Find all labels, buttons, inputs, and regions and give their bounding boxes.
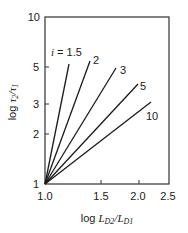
plot-frame xyxy=(45,17,169,184)
series-lines xyxy=(45,61,151,184)
y-tick-label: 5 xyxy=(33,61,39,73)
series-label-10: 10 xyxy=(146,110,158,122)
series-label-1.5: i = 1.5 xyxy=(51,46,82,58)
y-tick-label: 1 xyxy=(33,178,39,190)
x-tick-label: 2.0 xyxy=(130,190,145,202)
y-tick-label: 2 xyxy=(33,128,39,140)
series-label-3: 3 xyxy=(120,64,126,76)
y-tick-label: 10 xyxy=(28,11,40,23)
x-tick-label: 1.0 xyxy=(37,190,52,202)
y-tick-label: 3 xyxy=(33,98,39,110)
chart: 1.0 1.5 2.0 2.5 1 2 3 5 10 i = 1.5 2 3 5… xyxy=(0,0,188,233)
series-label-5: 5 xyxy=(140,80,146,92)
x-tick-label: 1.5 xyxy=(93,190,108,202)
x-ticks xyxy=(101,180,139,184)
x-tick-label: 2.5 xyxy=(160,190,175,202)
line-i-10 xyxy=(45,102,151,184)
series-label-2: 2 xyxy=(93,54,99,66)
y-axis-label: log τ2/τ1 xyxy=(6,84,20,121)
line-i-1.5 xyxy=(45,64,69,184)
line-i-5 xyxy=(45,84,138,184)
x-axis-label: log LD2/LD1 xyxy=(81,212,134,226)
